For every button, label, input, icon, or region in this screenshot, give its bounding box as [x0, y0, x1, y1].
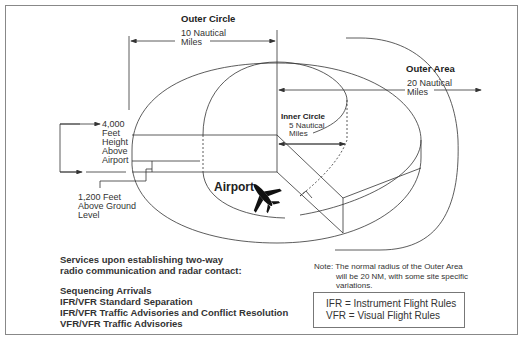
- service-item: IFR/VFR Standard Separation: [60, 296, 288, 307]
- outer-area-title: Outer Area: [406, 64, 455, 74]
- note: Note: The normal radius of the Outer Are…: [314, 262, 468, 291]
- service-item: IFR/VFR Traffic Advisories and Conflict …: [60, 307, 288, 318]
- inner-circle-top: [203, 62, 347, 135]
- outer-circle-radius-line2: Miles: [181, 37, 202, 47]
- services-intro-line2: radio communication and radar contact:: [60, 265, 288, 276]
- floor-label-2: Level: [78, 210, 100, 220]
- legend-ifr: IFR = Instrument Flight Rules: [326, 298, 464, 310]
- legend-vfr: VFR = Visual Flight Rules: [326, 310, 464, 322]
- abbreviation-legend: IFR = Instrument Flight Rules VFR = Visu…: [313, 292, 465, 328]
- inner-circle-ellipse: [203, 172, 285, 218]
- service-item: VFR/VFR Traffic Advisories: [60, 318, 288, 329]
- note-line1: Note: The normal radius of the Outer Are…: [314, 262, 468, 272]
- inner-circle-radius-line2: Miles: [289, 129, 308, 138]
- services-list: Services upon establishing two-way radio…: [60, 254, 288, 329]
- outer-circle-title: Outer Circle: [181, 14, 235, 24]
- outer-area-radius-line2: Miles: [407, 87, 428, 97]
- note-line3: variations.: [314, 281, 468, 291]
- note-line2: will be 20 NM, with some site specific: [314, 272, 468, 282]
- airport-label: Airport: [214, 180, 254, 194]
- height-label-4: Airport: [102, 155, 129, 165]
- service-item: Sequencing Arrivals: [60, 285, 288, 296]
- services-intro-line1: Services upon establishing two-way: [60, 254, 288, 265]
